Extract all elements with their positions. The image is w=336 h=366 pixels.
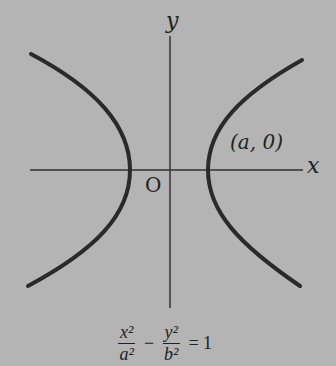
y-axis-label: y (166, 8, 178, 33)
hyperbola-equation: x² a² − y² b² = 1 (118, 322, 216, 365)
x-axis-label: x (307, 153, 319, 178)
equals-one: = 1 (188, 333, 212, 354)
vertex-label: (a, 0) (230, 130, 283, 154)
fraction-y: y² b² (163, 322, 180, 365)
right-branch (208, 60, 302, 286)
numerator-y: y² (163, 322, 180, 344)
numerator-x: x² (118, 322, 135, 344)
minus-operator: − (144, 333, 154, 354)
denominator-a: a² (118, 344, 135, 365)
fraction-x: x² a² (118, 322, 135, 365)
denominator-b: b² (163, 344, 180, 365)
hyperbola-diagram (0, 0, 336, 366)
origin-label: O (145, 173, 161, 197)
